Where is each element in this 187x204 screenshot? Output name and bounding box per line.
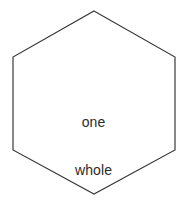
hexagon-shape <box>0 0 187 204</box>
hexagon-outline-icon <box>13 11 175 194</box>
hexagon-diagram: one whole <box>0 0 187 204</box>
